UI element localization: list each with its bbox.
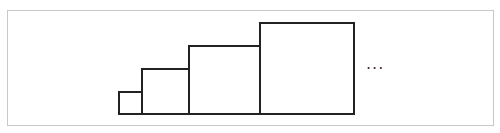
square-3 — [188, 45, 261, 115]
square-2 — [141, 68, 190, 115]
square-1 — [118, 91, 143, 115]
square-4 — [259, 22, 355, 115]
ellipsis: ... — [366, 56, 384, 72]
